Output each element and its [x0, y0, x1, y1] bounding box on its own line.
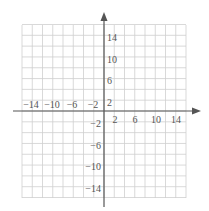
y-axis-arrow-icon [101, 12, 108, 21]
x-tick-label: −14 [23, 99, 39, 110]
x-tick-label: 14 [171, 114, 181, 125]
x-axis-arrow-icon [192, 108, 201, 115]
x-tick-label: 2 [113, 114, 118, 125]
coordinate-plane: −14 −10 −6 −2 2 6 10 14 14 10 6 2 −2 −6 … [0, 0, 209, 211]
x-tick-label: 6 [133, 114, 138, 125]
y-tick-label: −14 [85, 183, 101, 194]
y-tick-label: 2 [107, 97, 112, 108]
y-tick-label: −2 [90, 118, 101, 129]
x-tick-label: −6 [67, 99, 78, 110]
x-tick-label: 10 [151, 114, 161, 125]
y-tick-label: 6 [107, 75, 112, 86]
x-tick-label: −10 [44, 99, 60, 110]
y-tick-label: 14 [107, 32, 117, 43]
x-tick-label: −2 [88, 99, 99, 110]
y-tick-label: −10 [85, 161, 101, 172]
y-tick-label: −6 [90, 140, 101, 151]
y-tick-label: 10 [107, 54, 117, 65]
